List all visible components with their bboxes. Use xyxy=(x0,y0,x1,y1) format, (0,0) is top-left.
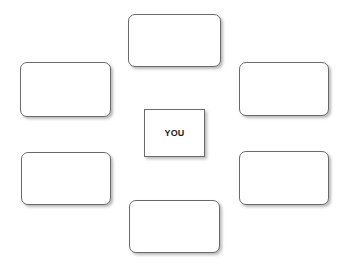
center-label: YOU xyxy=(164,128,184,138)
node-upper-left xyxy=(20,62,111,117)
node-top xyxy=(128,14,221,67)
node-upper-right xyxy=(239,62,329,116)
node-center-you: YOU xyxy=(144,109,205,157)
node-bottom xyxy=(129,200,220,253)
node-lower-right xyxy=(239,151,329,205)
node-lower-left xyxy=(21,152,111,205)
